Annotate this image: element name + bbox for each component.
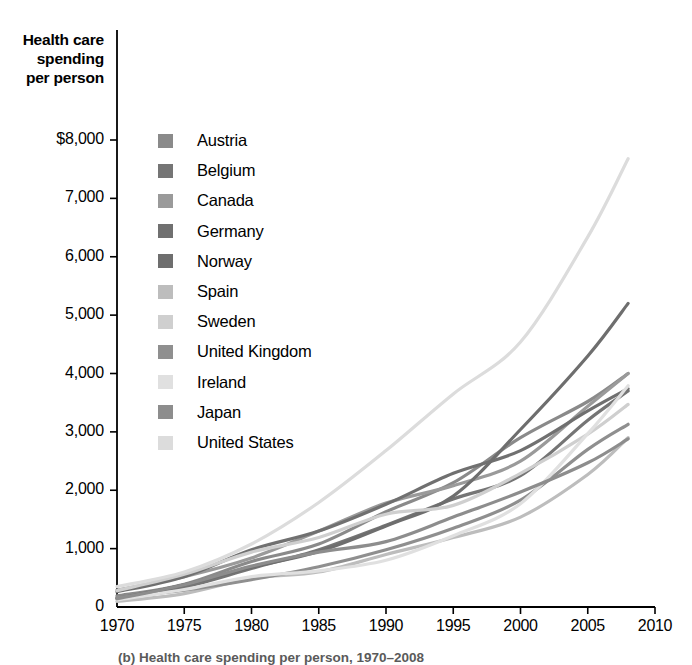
x-tick-label: 1995 [418,617,488,635]
legend-item-germany[interactable]: Germany [158,222,263,241]
y-tick-label: 4,000 [0,364,104,382]
x-tick-label: 1980 [217,617,287,635]
legend-label: Japan [197,403,241,422]
x-tick-label: 1970 [82,617,152,635]
legend-item-canada[interactable]: Canada [158,191,254,210]
legend-item-austria[interactable]: Austria [158,131,247,150]
legend-label: Canada [197,191,254,210]
y-tick-label: 0 [0,597,104,615]
legend-swatch-icon [158,285,173,299]
legend-item-sweden[interactable]: Sweden [158,312,255,331]
legend-swatch-icon [158,194,173,208]
legend-swatch-icon [158,375,173,389]
legend-swatch-icon [158,315,173,329]
legend-label: Spain [197,282,238,301]
legend-item-norway[interactable]: Norway [158,252,252,271]
legend-swatch-icon [158,224,173,238]
y-tick-label: 7,000 [0,188,104,206]
y-tick-label: 3,000 [0,422,104,440]
legend-label: Ireland [197,373,246,392]
x-tick-label: 2005 [553,617,623,635]
y-tick-label: 5,000 [0,305,104,323]
x-tick-label: 1990 [351,617,421,635]
legend-item-ireland[interactable]: Ireland [158,373,246,392]
y-tick-label: 1,000 [0,539,104,557]
legend-swatch-icon [158,134,173,148]
x-tick-label: 2000 [486,617,556,635]
legend-item-spain[interactable]: Spain [158,282,238,301]
x-tick-label: 1975 [149,617,219,635]
legend-label: Austria [197,131,247,150]
legend-swatch-icon [158,164,173,178]
legend-item-japan[interactable]: Japan [158,403,241,422]
figure-caption: (b) Health care spending per person, 197… [118,650,424,665]
y-tick-label: 2,000 [0,480,104,498]
legend-swatch-icon [158,405,173,419]
legend-item-belgium[interactable]: Belgium [158,161,255,180]
legend-label: Norway [197,252,252,271]
legend-label: United States [197,433,293,452]
y-tick-label: 6,000 [0,247,104,265]
legend-item-united-kingdom[interactable]: United Kingdom [158,342,312,361]
x-tick-label: 2010 [620,617,690,635]
legend-swatch-icon [158,254,173,268]
legend-label: Sweden [197,312,255,331]
y-tick-label: $8,000 [0,130,104,148]
x-tick-label: 1985 [284,617,354,635]
legend-label: Belgium [197,161,255,180]
legend-label: United Kingdom [197,342,312,361]
legend-label: Germany [197,222,263,241]
legend-swatch-icon [158,345,173,359]
legend-item-united-states[interactable]: United States [158,433,293,452]
legend-swatch-icon [158,436,173,450]
